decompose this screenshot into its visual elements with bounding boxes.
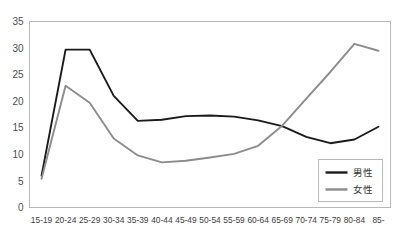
line-chart: 05101520253035 15-1920-2425-2930-3435-39… bbox=[0, 0, 398, 238]
y-tick-label: 5 bbox=[18, 176, 24, 187]
x-category-label: 35-39 bbox=[127, 215, 149, 225]
x-category-label: 60-64 bbox=[247, 215, 269, 225]
legend-label: 男性 bbox=[353, 167, 373, 178]
x-category-label: 25-29 bbox=[79, 215, 101, 225]
x-category-label: 20-24 bbox=[55, 215, 77, 225]
y-tick-label: 10 bbox=[12, 149, 24, 160]
x-category-label: 30-34 bbox=[103, 215, 125, 225]
x-category-label: 45-49 bbox=[175, 215, 197, 225]
x-axis-category-labels: 15-1920-2425-2930-3435-3940-4445-4950-54… bbox=[31, 215, 385, 225]
chart-background bbox=[0, 0, 398, 238]
x-category-label: 70-74 bbox=[296, 215, 318, 225]
chart-legend: 男性女性 bbox=[319, 160, 383, 202]
x-category-label: 40-44 bbox=[151, 215, 173, 225]
x-category-label: 65-69 bbox=[271, 215, 293, 225]
x-category-label: 50-54 bbox=[199, 215, 221, 225]
legend-label: 女性 bbox=[353, 184, 373, 195]
y-tick-label: 20 bbox=[12, 96, 24, 107]
y-tick-label: 0 bbox=[18, 202, 24, 213]
x-category-label: 75-79 bbox=[320, 215, 342, 225]
x-category-label: 55-59 bbox=[223, 215, 245, 225]
chart-canvas: 05101520253035 15-1920-2425-2930-3435-39… bbox=[0, 0, 398, 238]
y-tick-label: 35 bbox=[12, 16, 24, 27]
y-tick-label: 25 bbox=[12, 69, 24, 80]
x-category-label: 15-19 bbox=[31, 215, 53, 225]
y-tick-label: 15 bbox=[12, 122, 24, 133]
x-category-label: 85- bbox=[372, 215, 384, 225]
y-tick-label: 30 bbox=[12, 43, 24, 54]
x-category-label: 80-84 bbox=[344, 215, 366, 225]
